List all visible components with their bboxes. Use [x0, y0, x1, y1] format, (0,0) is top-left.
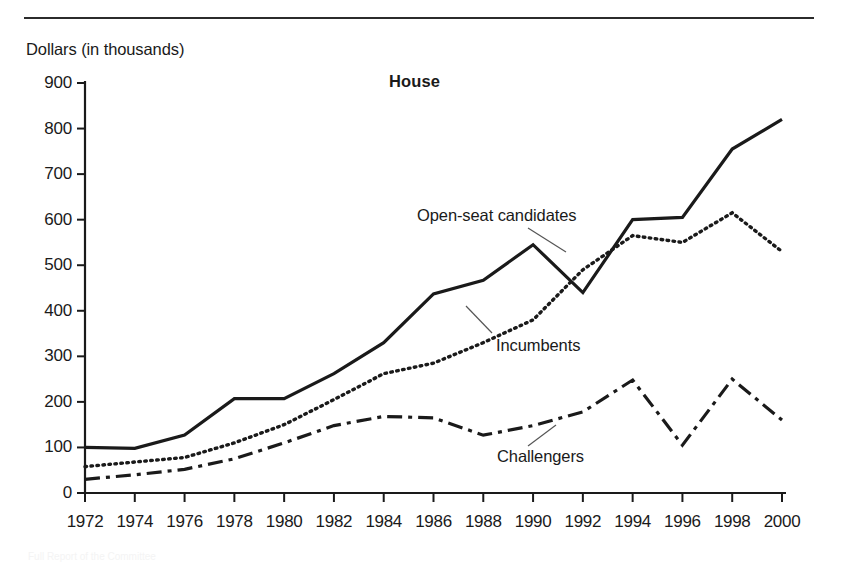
- y-axis-tick-label: 300: [14, 347, 72, 364]
- x-axis-tick-label: 1980: [266, 513, 303, 530]
- axis-layer: [77, 81, 786, 502]
- leader-line-solid: [528, 228, 566, 252]
- line-chart-plot: [0, 0, 841, 565]
- series-label-incumbents: Incumbents: [496, 337, 580, 354]
- figure-house-spending: Dollars (in thousands) House 01002003004…: [0, 0, 841, 565]
- x-axis-tick-label: 1992: [565, 513, 602, 530]
- x-axis-tick-label: 1994: [614, 513, 651, 530]
- y-axis-tick-label: 100: [14, 438, 72, 455]
- y-axis-tick-label: 700: [14, 165, 72, 182]
- x-axis-tick-label: 1990: [515, 513, 552, 530]
- x-axis-tick-label: 1974: [116, 513, 153, 530]
- x-axis-tick-label: 2000: [764, 513, 801, 530]
- x-axis-tick-label: 1978: [216, 513, 253, 530]
- series-label-challengers: Challengers: [497, 448, 584, 465]
- x-axis-tick-label: 1972: [67, 513, 104, 530]
- series-line-dash-dot: [85, 379, 782, 479]
- x-axis-tick-label: 1982: [316, 513, 353, 530]
- leader-line-dotted: [466, 306, 492, 333]
- y-axis-tick-label: 600: [14, 211, 72, 228]
- x-axis-tick-label: 1986: [415, 513, 452, 530]
- cut-off-caption: Full Report of the Committee: [28, 551, 156, 562]
- series-line-dotted: [85, 213, 782, 467]
- x-axis-tick-label: 1988: [465, 513, 502, 530]
- series-layer: [85, 119, 782, 479]
- x-axis-tick-label: 1976: [166, 513, 203, 530]
- series-label-open-seat: Open-seat candidates: [417, 207, 576, 224]
- y-axis-tick-label: 0: [14, 484, 72, 501]
- x-axis-tick-label: 1998: [714, 513, 751, 530]
- leader-line-dash-dot: [528, 425, 556, 446]
- series-line-solid: [85, 119, 782, 448]
- x-axis-tick-label: 1984: [365, 513, 402, 530]
- y-axis-tick-label: 200: [14, 393, 72, 410]
- y-axis-tick-label: 400: [14, 302, 72, 319]
- y-axis-tick-label: 900: [14, 74, 72, 91]
- x-axis-tick-label: 1996: [664, 513, 701, 530]
- y-axis-tick-label: 500: [14, 256, 72, 273]
- y-axis-tick-label: 800: [14, 120, 72, 137]
